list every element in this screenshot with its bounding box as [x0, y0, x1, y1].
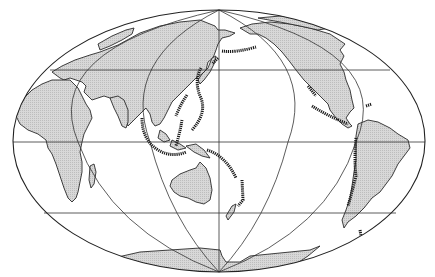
land-layer [16, 16, 410, 276]
new-britain-trench [207, 150, 236, 178]
south-sandwich-trench [360, 230, 361, 236]
tonga-kermadec-trench [238, 180, 243, 206]
map-svg [0, 0, 435, 277]
new-zealand-landmass [226, 204, 236, 220]
world-map [0, 0, 435, 277]
madagascar-landmass [89, 164, 96, 188]
australia-landmass [170, 162, 212, 204]
north-america-landmass [240, 22, 354, 128]
ryukyu-trench [176, 95, 187, 116]
africa-landmass [16, 80, 92, 202]
south-america-landmass [342, 120, 410, 228]
aleutian-trench [222, 47, 256, 52]
caribbean-trench [366, 104, 372, 106]
